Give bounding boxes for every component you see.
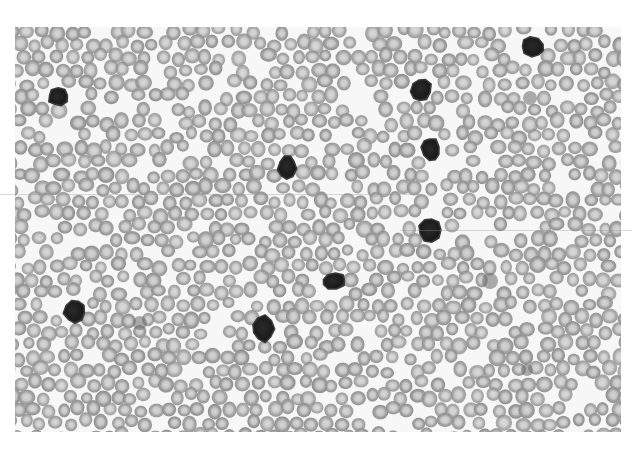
red-blood-cell xyxy=(537,144,550,158)
red-blood-cell xyxy=(40,142,54,156)
red-blood-cell xyxy=(171,391,184,406)
red-blood-cell xyxy=(505,272,518,286)
red-blood-cell xyxy=(124,336,139,351)
red-blood-cell xyxy=(15,183,19,197)
red-blood-cell xyxy=(338,322,354,336)
red-blood-cell xyxy=(101,275,114,288)
red-blood-cell xyxy=(135,75,152,91)
red-blood-cell xyxy=(268,143,281,156)
red-blood-cell xyxy=(411,101,423,115)
red-blood-cell xyxy=(284,38,297,51)
red-blood-cell xyxy=(514,233,528,248)
red-blood-cell xyxy=(103,402,117,415)
red-blood-cell xyxy=(106,126,121,142)
red-blood-cell xyxy=(161,170,176,184)
red-blood-cell xyxy=(361,283,377,297)
red-blood-cell xyxy=(486,312,500,327)
red-blood-cell xyxy=(554,39,569,53)
red-blood-cell xyxy=(126,177,139,193)
red-blood-cell xyxy=(375,324,388,338)
red-blood-cell xyxy=(55,326,69,338)
red-blood-cell xyxy=(472,416,485,429)
red-blood-cell xyxy=(276,182,290,194)
red-blood-cell xyxy=(25,88,39,101)
red-blood-cell xyxy=(394,74,410,89)
red-blood-cell xyxy=(424,416,437,428)
red-blood-cell xyxy=(51,232,64,244)
red-blood-cell xyxy=(377,308,389,323)
red-blood-cell xyxy=(511,154,526,167)
red-blood-cell xyxy=(610,273,621,287)
red-blood-cell xyxy=(214,259,228,274)
red-blood-cell xyxy=(61,74,76,88)
red-blood-cell xyxy=(184,259,197,270)
red-blood-cell xyxy=(366,365,379,378)
red-blood-cell xyxy=(337,76,351,91)
red-blood-cell xyxy=(393,49,408,64)
red-blood-cell xyxy=(342,244,354,256)
red-blood-cell xyxy=(41,377,56,392)
red-blood-cell xyxy=(339,404,353,418)
red-blood-cell xyxy=(190,34,206,49)
red-blood-cell xyxy=(387,165,401,181)
red-blood-cell xyxy=(286,334,303,350)
red-blood-cell xyxy=(47,285,62,298)
red-blood-cell xyxy=(147,347,162,361)
red-blood-cell xyxy=(260,416,275,432)
red-blood-cell xyxy=(176,272,191,286)
red-blood-cell xyxy=(94,47,107,61)
red-blood-cell xyxy=(15,353,25,368)
red-blood-cell xyxy=(350,309,366,323)
red-blood-cell xyxy=(444,89,459,103)
red-blood-cell xyxy=(80,101,96,116)
red-blood-cell xyxy=(339,113,354,127)
red-blood-cell xyxy=(604,234,617,247)
red-blood-cell xyxy=(227,74,242,88)
red-blood-cell xyxy=(78,154,91,168)
red-blood-cell xyxy=(619,209,621,223)
red-blood-cell xyxy=(55,431,67,432)
red-blood-cell xyxy=(324,86,338,104)
red-blood-cell xyxy=(335,50,351,66)
red-blood-cell xyxy=(545,27,557,36)
red-blood-cell xyxy=(326,166,339,180)
red-blood-cell xyxy=(548,193,564,207)
red-blood-cell xyxy=(313,348,328,361)
red-blood-cell xyxy=(416,244,432,259)
red-blood-cell xyxy=(397,101,412,114)
red-blood-cell xyxy=(15,259,16,272)
red-blood-cell xyxy=(281,220,297,234)
red-blood-cell xyxy=(15,430,24,432)
red-blood-cell xyxy=(438,128,451,140)
red-blood-cell xyxy=(467,180,479,193)
red-blood-cell xyxy=(556,129,570,143)
red-blood-cell xyxy=(411,156,426,170)
red-blood-cell xyxy=(343,36,356,49)
red-blood-cell xyxy=(151,284,166,296)
red-blood-cell xyxy=(466,336,481,351)
red-blood-cell xyxy=(598,34,611,48)
red-blood-cell xyxy=(302,128,315,142)
red-blood-cell xyxy=(501,100,514,113)
red-blood-cell xyxy=(151,127,165,139)
red-blood-cell xyxy=(588,126,603,140)
red-blood-cell xyxy=(235,194,248,208)
red-blood-cell xyxy=(200,208,214,221)
red-blood-cell xyxy=(23,168,40,184)
red-blood-cell xyxy=(147,171,160,183)
red-blood-cell xyxy=(205,348,221,364)
red-blood-cell xyxy=(575,284,588,297)
red-blood-cell xyxy=(297,196,309,210)
red-blood-cell xyxy=(605,127,619,142)
red-blood-cell xyxy=(33,131,45,144)
red-blood-cell xyxy=(211,27,225,34)
red-blood-cell xyxy=(136,387,151,401)
red-blood-cell xyxy=(30,297,42,311)
red-blood-cell xyxy=(484,47,500,61)
red-blood-cell xyxy=(273,128,286,140)
red-blood-cell xyxy=(152,152,167,167)
red-blood-cell xyxy=(222,297,234,308)
red-blood-cell xyxy=(317,103,331,115)
red-blood-cell xyxy=(87,379,101,393)
red-blood-cell xyxy=(379,77,393,90)
